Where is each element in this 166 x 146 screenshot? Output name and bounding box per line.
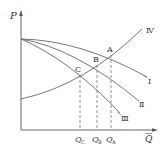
curve-IV-label: Ⅳ <box>146 26 155 35</box>
x-axis-arrow-icon <box>152 128 158 132</box>
y-axis-arrow-icon <box>19 10 23 16</box>
point-A-label: A <box>106 45 113 54</box>
tick-QB-sub: B <box>98 139 102 145</box>
point-B-label: B <box>93 55 99 64</box>
y-axis-label: P <box>9 10 17 21</box>
diagram-canvas: P Q Ⅰ Ⅱ Ⅲ Ⅳ A B C Q C Q B Q A <box>0 0 166 146</box>
x-axis-label: Q <box>145 134 153 144</box>
tick-QA-sub: A <box>111 139 116 145</box>
point-C-label: C <box>75 65 81 74</box>
curve-II-label: Ⅱ <box>139 100 144 109</box>
curve-I <box>21 39 147 77</box>
curve-III-label: Ⅲ <box>121 114 129 123</box>
tick-QC-sub: C <box>81 139 85 145</box>
curve-I-label: Ⅰ <box>148 77 151 86</box>
